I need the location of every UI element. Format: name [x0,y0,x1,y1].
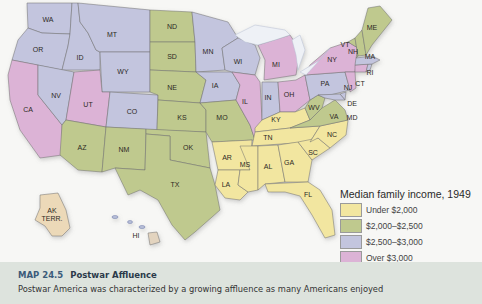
state-label-IN: IN [265,94,272,101]
state-label-FL: FL [304,191,312,198]
caption-number: MAP 24.5 [18,270,63,280]
state-label-AK: TERR. [42,215,63,222]
state-label-NV: NV [51,92,61,99]
state-label-OR: OR [33,46,44,53]
state-label-MN: MN [203,48,214,55]
state-label-NJ: NJ [344,84,353,91]
state-label-MD: MD [347,114,358,121]
state-FL [265,182,335,238]
legend: Median family income, 1949 Under $2,000 … [340,188,482,266]
state-label-RI: RI [367,69,374,76]
state-label-WA: WA [42,16,53,23]
state-label-VA: VA [330,113,339,120]
state-label-WY: WY [117,68,129,75]
state-label-MA: MA [365,53,376,60]
state-label-IA: IA [212,82,219,89]
legend-item: $2,000–$2,500 [340,218,482,234]
state-label-GA: GA [284,159,294,166]
state-NE [150,70,206,103]
state-label-SD: SD [167,53,177,60]
state-label-TN: TN [263,134,272,141]
state-label-DE: DE [347,100,357,107]
legend-item: $2,500–$3,000 [340,234,482,250]
state-label-MT: MT [107,31,118,38]
legend-label: Under $2,000 [366,205,418,215]
state-label-CA: CA [23,106,33,113]
state-label-ID: ID [77,54,84,61]
state-label-NY: NY [327,56,337,63]
legend-title: Median family income, 1949 [340,188,482,200]
state-label-KS: KS [177,114,187,121]
caption-title: MAP 24.5 Postwar Affluence [18,270,157,280]
legend-swatch [340,235,362,249]
state-label-SC: SC [308,149,318,156]
state-label-IL: IL [242,98,248,105]
state-label-AZ: AZ [78,144,88,151]
state-label-NE: NE [167,84,177,91]
state-label-VT: VT [341,41,351,48]
state-label-OH: OH [284,91,295,98]
state-label-CT: CT [355,80,365,87]
hawaii-islands [128,221,133,224]
state-label-NC: NC [327,131,337,138]
state-label-CO: CO [127,108,138,115]
state-label-LA: LA [222,181,231,188]
state-label-NH: NH [348,48,358,55]
state-label-MO: MO [216,114,228,121]
state-label-KY: KY [271,116,281,123]
state-label-NM: NM [119,146,130,153]
state-label-AK: AK [47,207,57,214]
state-label-WV: WV [308,104,320,111]
legend-item: Under $2,000 [340,202,482,218]
hawaii-islands [112,216,118,219]
legend-swatch [340,219,362,233]
state-label-OK: OK [183,144,193,151]
state-label-UT: UT [83,101,93,108]
state-label-MI: MI [272,61,280,68]
state-HI [148,232,160,245]
state-label-AL: AL [264,163,273,170]
state-label-ND: ND [167,23,177,30]
state-label-ME: ME [367,24,378,31]
map-caption: MAP 24.5 Postwar Affluence Postwar Ameri… [0,262,482,304]
state-label-TX: TX [171,181,180,188]
legend-label: $2,500–$3,000 [366,237,423,247]
state-label-HI: HI [133,232,140,239]
state-label-PA: PA [321,80,330,87]
caption-text: Postwar America was characterized by a g… [18,284,383,294]
hawaii-islands [139,226,145,229]
caption-heading: Postwar Affluence [70,270,157,280]
state-label-WI: WI [234,58,243,65]
state-label-AR: AR [222,154,232,161]
legend-swatch [340,203,362,217]
state-label-MS: MS [240,161,251,168]
legend-label: $2,000–$2,500 [366,221,423,231]
